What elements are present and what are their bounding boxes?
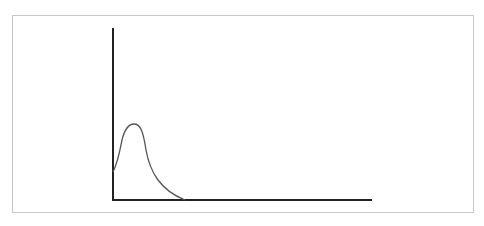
distribution-curve xyxy=(113,124,185,200)
chart-plot xyxy=(0,0,484,226)
